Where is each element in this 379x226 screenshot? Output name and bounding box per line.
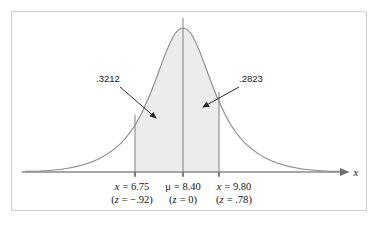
tick-label-center-variable: μ (165, 181, 171, 192)
tick-label-center-z-equation: = 0 (180, 194, 194, 205)
tick-label-center-zvalue: (z= 0) (169, 194, 197, 206)
tick-label-left-variable: x (114, 181, 120, 192)
z-close-paren-left: ) (149, 194, 153, 206)
z-close-paren-center: ) (193, 194, 197, 206)
z-close-paren-right: ) (248, 194, 252, 206)
tick-label-center-z-variable: z (172, 194, 177, 205)
tick-label-right-z-equation: = .78 (227, 194, 249, 205)
tick-label-right-value: x= 9.80 (216, 181, 252, 192)
tick-label-left-value: x= 6.75 (114, 181, 150, 192)
tick-label-left-equation: = 6.75 (122, 181, 149, 192)
distribution-chart: x .3212 .2823 x= 6.75 μ= 8.40 x= 9.80 (z… (0, 0, 379, 226)
right-area-label: .2823 (239, 73, 263, 84)
tick-label-right-variable: x (216, 181, 222, 192)
left-area-label: .3212 (96, 73, 120, 84)
tick-label-center-equation: = 8.40 (174, 181, 201, 192)
tick-label-center-value: μ= 8.40 (165, 181, 201, 192)
tick-label-left-z-equation: = −.92 (122, 194, 150, 205)
tick-label-right-equation: = 9.80 (224, 181, 251, 192)
x-axis-variable-label: x (353, 166, 359, 178)
tick-label-right-zvalue: (z= .78) (216, 194, 252, 206)
tick-label-left-zvalue: (z= −.92) (111, 194, 153, 206)
normal-distribution-figure: x .3212 .2823 x= 6.75 μ= 8.40 x= 9.80 (z… (0, 0, 379, 226)
tick-label-left-z-variable: z (114, 194, 119, 205)
tick-label-right-z-variable: z (219, 194, 224, 205)
